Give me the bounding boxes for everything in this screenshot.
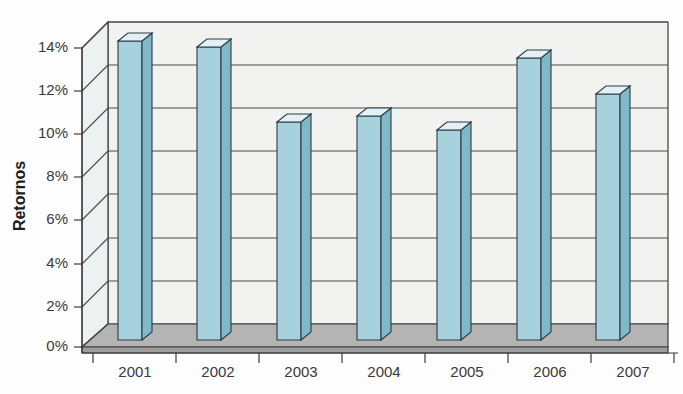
bar-2001[interactable] <box>118 33 152 340</box>
ytick-label-2: 2% <box>46 297 68 314</box>
bar-2001-side <box>142 33 152 340</box>
xtick-label-2004: 2004 <box>367 363 400 380</box>
bar-2003-side <box>301 114 311 340</box>
floor-front-edge <box>82 347 668 353</box>
bar-2007[interactable] <box>596 86 630 340</box>
bar-2006-side <box>541 50 551 340</box>
xtick-label-2003: 2003 <box>284 363 317 380</box>
bar-2004[interactable] <box>357 108 391 340</box>
xtick-label-2001: 2001 <box>118 363 151 380</box>
bar-2002[interactable] <box>197 39 231 340</box>
ytick-label-6: 6% <box>46 210 68 227</box>
xtick-label-2005: 2005 <box>450 363 483 380</box>
x-axis-group <box>82 353 678 363</box>
xtick-label-2006: 2006 <box>533 363 566 380</box>
x-axis-labels: 2001 2002 2003 2004 2005 2006 2007 <box>118 363 649 380</box>
bar-2006-front <box>517 58 541 340</box>
bar-2005[interactable] <box>437 122 471 340</box>
bar-2004-side <box>381 108 391 340</box>
y-axis-labels: 14% 12% 10% 8% 6% 4% 2% 0% <box>38 38 68 354</box>
bar-2005-front <box>437 130 461 340</box>
bar-2002-front <box>197 47 221 340</box>
ytick-label-14: 14% <box>38 38 68 55</box>
bar-2004-front <box>357 116 381 340</box>
bar-2005-side <box>461 122 471 340</box>
ytick-label-12: 12% <box>38 81 68 98</box>
bar-2002-side <box>221 39 231 340</box>
ytick-label-10: 10% <box>38 124 68 141</box>
y-axis-title: Retornos <box>11 161 28 231</box>
bar-2003-front <box>277 122 301 340</box>
bar-2007-side <box>620 86 630 340</box>
ytick-label-4: 4% <box>46 254 68 271</box>
ytick-label-8: 8% <box>46 167 68 184</box>
ytick-label-0: 0% <box>46 337 68 354</box>
bar-chart-figure: 14% 12% 10% 8% 6% 4% 2% 0% 2001 2002 200… <box>0 0 683 394</box>
xtick-label-2007: 2007 <box>616 363 649 380</box>
left-wall-panel <box>82 22 108 347</box>
chart-canvas: 14% 12% 10% 8% 6% 4% 2% 0% 2001 2002 200… <box>0 0 683 394</box>
bar-2006[interactable] <box>517 50 551 340</box>
bar-2001-front <box>118 41 142 340</box>
bar-2007-front <box>596 94 620 340</box>
bar-2003[interactable] <box>277 114 311 340</box>
xtick-label-2002: 2002 <box>201 363 234 380</box>
